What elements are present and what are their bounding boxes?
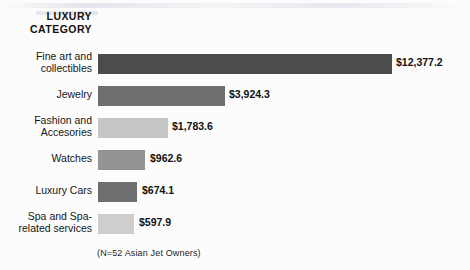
chart-footnote: (N=52 Asian Jet Owners) [97, 248, 201, 259]
bar-label-spa-and-spa-related-services: Spa and Spa- related services [0, 210, 92, 234]
bar-label-luxury-cars: Luxury Cars [0, 184, 92, 196]
bar-watches [98, 150, 145, 170]
bar-value-fashion-and-accesories: $1,783.6 [172, 120, 213, 132]
bar-row-spa-and-spa-related-services: Spa and Spa- related services $597.9 [0, 208, 470, 240]
bar-row-fashion-and-accesories: Fashion and Accesories $1,783.6 [0, 112, 470, 144]
chart-plot-area: Fine art and collectibles $12,377.2 Jewe… [0, 48, 470, 240]
bar-label-fashion-and-accesories: Fashion and Accesories [0, 114, 92, 138]
bar-label-fine-art-and-collectibles: Fine art and collectibles [0, 50, 92, 74]
bar-luxury-cars [98, 182, 137, 202]
luxury-category-bar-chart: LUXURY CATEGORY Fine art and collectible… [0, 0, 470, 270]
bar-label-jewelry: Jewelry [0, 88, 92, 100]
bar-row-fine-art-and-collectibles: Fine art and collectibles $12,377.2 [0, 48, 470, 80]
bar-row-watches: Watches $962.6 [0, 144, 470, 176]
chart-title-line-2: CATEGORY [0, 23, 92, 36]
chart-title: LUXURY CATEGORY [0, 10, 92, 35]
bar-fine-art-and-collectibles [98, 54, 392, 74]
bar-jewelry [98, 86, 225, 106]
bar-value-spa-and-spa-related-services: $597.9 [139, 216, 171, 228]
chart-title-line-1: LUXURY [0, 10, 92, 23]
bar-value-fine-art-and-collectibles: $12,377.2 [396, 56, 443, 68]
bar-value-jewelry: $3,924.3 [229, 88, 270, 100]
bar-value-luxury-cars: $674.1 [142, 184, 174, 196]
bar-value-watches: $962.6 [150, 152, 182, 164]
bar-row-luxury-cars: Luxury Cars $674.1 [0, 176, 470, 208]
bar-fashion-and-accesories [98, 118, 168, 138]
bar-row-jewelry: Jewelry $3,924.3 [0, 80, 470, 112]
bar-label-watches: Watches [0, 152, 92, 164]
bar-spa-and-spa-related-services [98, 214, 134, 234]
